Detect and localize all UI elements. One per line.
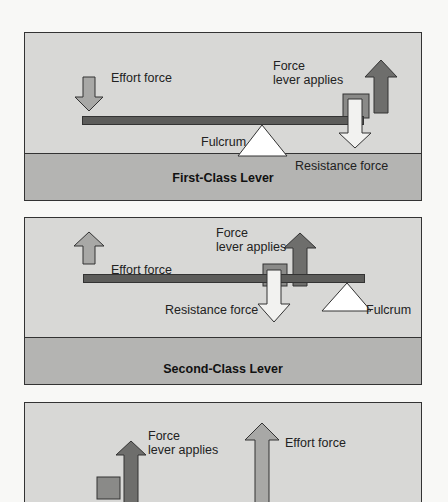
fulcrum-label: Fulcrum: [366, 303, 411, 317]
lever-graphics: [25, 403, 422, 502]
resistance-arrow-down-icon: [258, 270, 290, 322]
effort-force-label: Effort force: [111, 71, 172, 85]
resistance-arrow-down-icon: [339, 99, 371, 148]
third-class-lever-panel: Force lever applies Effort force: [24, 402, 422, 502]
effort-arrow-up-icon: [245, 423, 279, 502]
force-label-line1: Force: [273, 59, 305, 73]
effort-force-label: Effort force: [111, 263, 172, 277]
effort-force-label: Effort force: [285, 436, 346, 450]
force-label-line1: Force: [148, 429, 180, 443]
force-label-line2: lever applies: [148, 443, 218, 457]
second-class-lever-panel: Effort force Force lever applies Resista…: [24, 217, 422, 385]
fulcrum-icon: [322, 283, 371, 311]
panel-title: First-Class Lever: [25, 171, 421, 185]
force-label-line2: lever applies: [216, 240, 286, 254]
resistance-force-label: Resistance force: [165, 303, 258, 317]
first-class-lever-panel: Effort force Force lever applies Fulcrum…: [24, 32, 422, 201]
panel-title: Second-Class Lever: [25, 362, 421, 376]
load-box: [97, 477, 120, 499]
force-label-line1: Force: [216, 226, 248, 240]
fulcrum-label: Fulcrum: [201, 135, 246, 149]
force-label-line2: lever applies: [273, 73, 343, 87]
